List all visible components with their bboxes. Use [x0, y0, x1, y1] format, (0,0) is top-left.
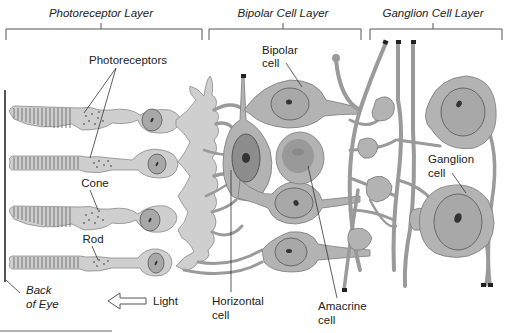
bipolar-cell-label-2: cell: [262, 57, 279, 69]
back-of-eye-leader: [6, 280, 20, 293]
cone-label: Cone: [81, 177, 109, 189]
amacrine-cell: [276, 132, 324, 184]
back-of-eye-label-2: of Eye: [26, 298, 59, 310]
back-of-eye-label-1: Back: [26, 284, 53, 296]
bipolar-layer-title: Bipolar Cell Layer: [238, 7, 330, 19]
horizontal-cell-label-2: cell: [212, 309, 229, 321]
photoreceptor-layer-bracket: [6, 23, 202, 40]
photoreceptor-layer-title: Photoreceptor Layer: [49, 7, 154, 19]
rod-cell-2: [9, 249, 172, 276]
cone-cell-2: [10, 206, 177, 233]
ganglion-cell-label-2: cell: [428, 167, 445, 179]
rod-cell-1: [9, 149, 178, 178]
photoreceptor-cells: [9, 76, 218, 276]
photoreceptors-label: Photoreceptors: [89, 54, 167, 66]
amacrine-cell-label-2: cell: [318, 314, 335, 326]
retina-diagram: Photoreceptor Layer Bipolar Cell Layer G…: [0, 0, 506, 333]
ganglion-layer-title: Ganglion Cell Layer: [382, 7, 484, 19]
light-label: Light: [153, 295, 179, 307]
horizontal-cell-label-1: Horizontal: [212, 295, 264, 307]
ganglion-cell-2: [419, 185, 494, 258]
photoreceptor-terminals: [176, 76, 219, 270]
bipolar-layer-bracket: [209, 23, 361, 40]
amacrine-cell-leader: [308, 166, 337, 298]
ganglion-layer-bracket: [370, 23, 502, 40]
rod-label: Rod: [82, 233, 103, 245]
light-arrow-icon: [108, 293, 146, 309]
layer-headers: Photoreceptor Layer Bipolar Cell Layer G…: [6, 7, 502, 40]
ganglion-cell-label-1: Ganglion: [428, 153, 474, 165]
cone-cell-1: [10, 106, 181, 133]
amacrine-cell-label-1: Amacrine: [318, 300, 367, 312]
bipolar-cell-label-1: Bipolar: [262, 44, 298, 56]
ganglion-cell-1: [425, 76, 496, 149]
